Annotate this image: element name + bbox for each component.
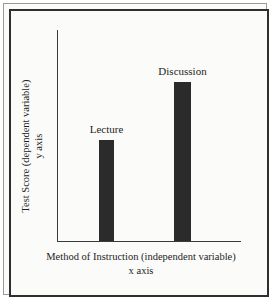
- y-axis-title: Test Score (dependent variable) y axis: [19, 51, 45, 241]
- x-axis-title-line2: x axis: [33, 264, 249, 278]
- bar-label-discussion: Discussion: [150, 66, 215, 78]
- x-axis-title-line1: Method of Instruction (independent varia…: [46, 251, 236, 262]
- y-axis-title-line1: Test Score (dependent variable): [20, 80, 31, 213]
- x-axis-line: [57, 241, 241, 242]
- y-axis-line: [57, 30, 58, 242]
- x-axis-title: Method of Instruction (independent varia…: [33, 250, 249, 277]
- bar-label-lecture: Lecture: [78, 124, 135, 136]
- y-axis-title-line2: y axis: [32, 51, 45, 241]
- bar-discussion: [174, 82, 191, 241]
- bar-lecture: [99, 140, 114, 241]
- bar-chart-plot-area: Lecture Discussion Test Score (dependent…: [0, 0, 273, 300]
